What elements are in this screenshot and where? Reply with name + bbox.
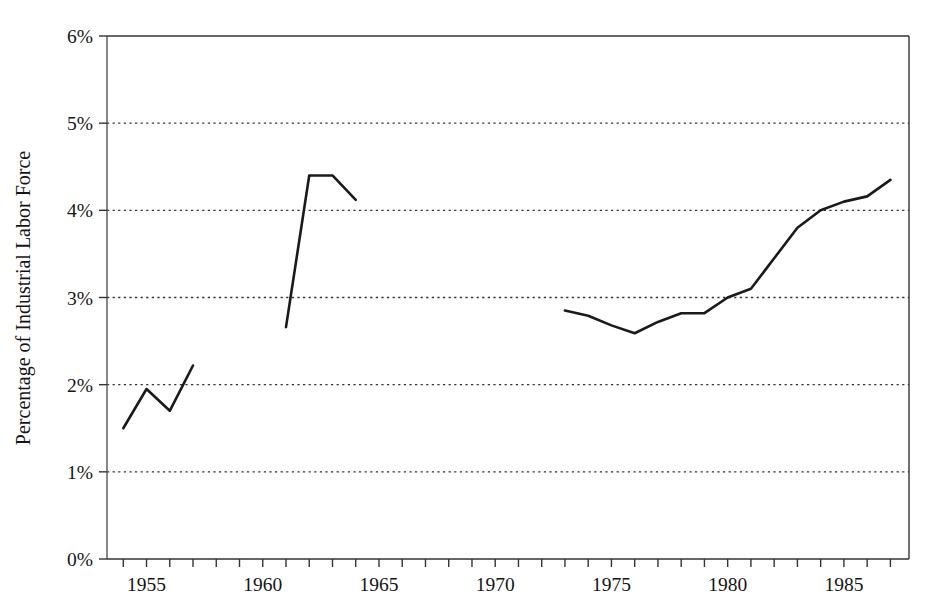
x-tick-label: 1985 [824,574,863,595]
plot-background [107,36,909,559]
chart-container: 0%1%2%3%4%5%6% 1955196019651970197519801… [0,0,937,616]
y-tick-label: 4% [67,200,93,221]
y-tick-label: 2% [67,375,93,396]
x-tick-label: 1980 [708,574,747,595]
y-tick-label: 3% [67,288,93,309]
x-tick-label: 1965 [359,574,398,595]
y-tick-label: 6% [67,26,93,47]
x-tick-label: 1975 [592,574,631,595]
y-axis-title: Percentage of Industrial Labor Force [12,151,35,445]
y-tick-label: 1% [67,462,93,483]
x-axis-ticks-group: 1955196019651970197519801985 [123,559,890,595]
x-tick-label: 1970 [476,574,515,595]
x-tick-label: 1955 [127,574,166,595]
y-axis-ticks-group: 0%1%2%3%4%5%6% [67,26,107,570]
y-tick-label: 0% [67,549,93,570]
y-tick-label: 5% [67,113,93,134]
line-chart: 0%1%2%3%4%5%6% 1955196019651970197519801… [0,0,937,616]
x-tick-label: 1960 [243,574,282,595]
